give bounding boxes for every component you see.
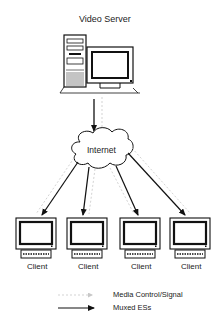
client-label: Client bbox=[181, 262, 201, 271]
client-icon bbox=[120, 218, 160, 258]
client-icon bbox=[16, 218, 56, 258]
streaming-architecture-diagram bbox=[0, 0, 218, 331]
internet-label: Internet bbox=[87, 145, 116, 155]
client-label: Client bbox=[78, 262, 98, 271]
legend-control-label: Media Control/Signal bbox=[113, 290, 183, 299]
legend-muxed-label: Muxed ESs bbox=[113, 303, 151, 312]
client-icon bbox=[67, 218, 107, 258]
client-icon bbox=[170, 218, 210, 258]
client-label: Client bbox=[27, 262, 47, 271]
client-label: Client bbox=[131, 262, 151, 271]
server-icon bbox=[60, 35, 140, 93]
server-label: Video Server bbox=[79, 14, 131, 24]
